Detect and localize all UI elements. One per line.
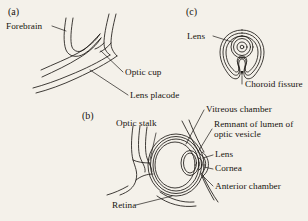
leader-optic-stalk [150,133,156,160]
eye-development-figure: (a) (b) (c) Forebrain Optic cup Lens pla… [0,0,308,221]
label-lens-b: Lens [215,149,233,159]
label-anterior-chamber: Anterior chamber [215,181,281,191]
panel-a-artwork [33,14,117,93]
leader-optic-cup [101,51,123,72]
leader-lens-b [203,155,213,158]
label-cornea: Cornea [215,163,242,173]
leader-forebrain [52,26,66,31]
panel-c-artwork [220,30,264,79]
leader-lens-placode [90,70,128,95]
label-choroid-fissure: Choroid fissure [245,79,303,89]
leader-vitreous-chamber [186,110,204,144]
panel-tag-a: (a) [8,6,19,17]
label-optic-cup: Optic cup [125,67,161,77]
label-retina: Retina [112,200,136,210]
panel-tag-b: (b) [82,110,94,121]
panel-b-artwork [107,120,218,207]
label-vitreous-chamber: Vitreous chamber [206,104,272,114]
label-optic-stalk: Optic stalk [116,118,157,128]
label-remnant-of-lumen: Remnant of lumen of optic vesicle [214,119,306,140]
leader-retina [136,196,172,205]
leader-remnant-lumen [198,129,212,152]
label-lens-c: Lens [187,31,205,41]
label-forebrain: Forebrain [6,21,42,31]
label-lens-placode: Lens placode [130,90,179,100]
panel-tag-c: (c) [186,6,197,17]
